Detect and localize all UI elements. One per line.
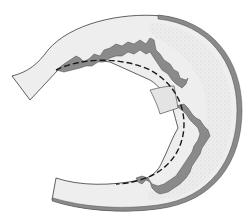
anatomical-diagram (0, 0, 249, 223)
